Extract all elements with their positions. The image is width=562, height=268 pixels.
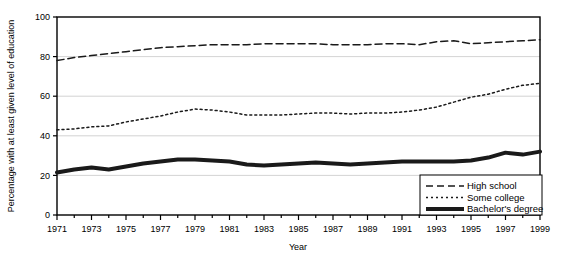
x-tick-label: 1985 (288, 224, 308, 234)
y-axis-title: Percentage with at least given level of … (6, 20, 16, 213)
x-tick-label: 1981 (219, 224, 239, 234)
series-line (57, 152, 540, 173)
y-tick-label: 40 (40, 131, 50, 141)
series-line (57, 83, 540, 130)
chart-legend: High schoolSome collegeBachelor's degree (420, 175, 543, 215)
x-tick-label: 1995 (461, 224, 481, 234)
chart-figure: 020406080100 197119731975197719791981198… (0, 0, 562, 268)
x-tick-label: 1971 (47, 224, 67, 234)
x-tick-label: 1975 (116, 224, 136, 234)
x-tick-label: 1979 (185, 224, 205, 234)
legend-label: High school (467, 180, 517, 191)
legend-label: Bachelor's degree (467, 203, 543, 214)
series-line (57, 40, 540, 61)
gridlines (57, 57, 540, 176)
x-tick-label: 1977 (150, 224, 170, 234)
y-axis-tick-labels: 020406080100 (35, 12, 50, 220)
x-axis-tick-labels: 1971197319751977197919811983198519871989… (47, 224, 550, 234)
education-attainment-line-chart: 020406080100 197119731975197719791981198… (0, 0, 562, 268)
x-tick-label: 1973 (81, 224, 101, 234)
x-tick-label: 1989 (357, 224, 377, 234)
x-tick-label: 1997 (495, 224, 515, 234)
y-tick-label: 0 (45, 210, 50, 220)
x-axis-title: Year (289, 242, 307, 252)
x-tick-label: 1999 (530, 224, 550, 234)
y-tick-label: 100 (35, 12, 50, 22)
x-tick-label: 1983 (254, 224, 274, 234)
y-tick-label: 80 (40, 52, 50, 62)
x-tick-label: 1987 (323, 224, 343, 234)
data-series-group (57, 40, 540, 173)
x-tick-label: 1991 (392, 224, 412, 234)
legend-label: Some college (467, 192, 525, 203)
y-tick-label: 60 (40, 91, 50, 101)
x-axis-ticks (57, 215, 540, 220)
y-tick-label: 20 (40, 171, 50, 181)
x-tick-label: 1993 (426, 224, 446, 234)
